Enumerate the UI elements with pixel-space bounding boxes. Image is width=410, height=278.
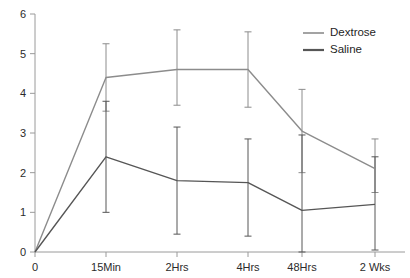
legend-item-dextrose[interactable]: Dextrose bbox=[303, 26, 376, 38]
y-axis-tick-label: 6 bbox=[20, 8, 26, 20]
x-axis-tick-label: 0 bbox=[32, 261, 38, 273]
y-axis-tick-label: 5 bbox=[20, 48, 26, 60]
y-axis-tick-label: 1 bbox=[20, 206, 26, 218]
x-axis-tick-label: 48Hrs bbox=[287, 261, 317, 273]
y-axis-tick-label: 0 bbox=[20, 246, 26, 258]
x-axis-tick-label: 4Hrs bbox=[236, 261, 260, 273]
legend-label: Saline bbox=[330, 43, 362, 55]
y-axis-tick-label: 4 bbox=[20, 87, 26, 99]
series-line-dextrose bbox=[35, 70, 375, 252]
x-axis-tick-label: 2 Wks bbox=[360, 261, 391, 273]
error-bar bbox=[174, 30, 181, 105]
x-axis: 015Min2Hrs4Hrs48Hrs2 Wks bbox=[32, 252, 405, 273]
y-axis-tick-label: 2 bbox=[20, 167, 26, 179]
error-bar bbox=[245, 139, 252, 236]
error-bar bbox=[299, 135, 306, 252]
legend-label: Dextrose bbox=[330, 26, 376, 38]
legend-item-saline[interactable]: Saline bbox=[303, 43, 362, 55]
chart-container: 0123456 015Min2Hrs4Hrs48Hrs2 Wks Dextros… bbox=[0, 0, 410, 278]
x-axis-tick-label: 15Min bbox=[91, 261, 121, 273]
y-axis: 0123456 bbox=[20, 8, 35, 258]
error-bar bbox=[372, 157, 379, 250]
y-axis-tick-label: 3 bbox=[20, 127, 26, 139]
series-line-saline bbox=[35, 157, 375, 252]
chart-legend: DextroseSaline bbox=[303, 26, 376, 55]
series-layer bbox=[35, 30, 379, 252]
x-axis-tick-label: 2Hrs bbox=[165, 261, 189, 273]
line-chart: 0123456 015Min2Hrs4Hrs48Hrs2 Wks Dextros… bbox=[0, 0, 410, 278]
